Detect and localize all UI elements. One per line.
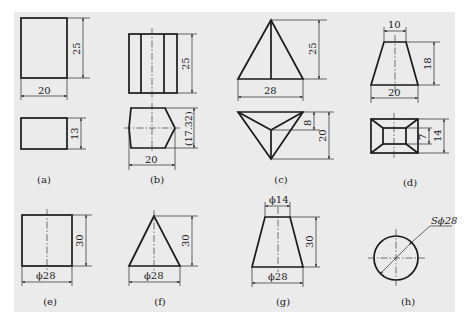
label-e: (e) (43, 296, 57, 307)
view-g: ϕ14 30 ϕ28 (g) (252, 194, 320, 307)
dim-e-diameter: ϕ28 (36, 270, 56, 281)
view-h: Sϕ28 (h) (368, 215, 457, 307)
dim-h-diameter: Sϕ28 (431, 215, 457, 226)
view-b: 25 (17.32) 20 (b) (124, 28, 198, 185)
label-c: (c) (274, 174, 288, 185)
dim-a-width: 20 (38, 85, 51, 96)
label-f: (f) (154, 296, 166, 307)
dim-a-depth: 13 (69, 127, 80, 140)
dim-b-corners: 20 (145, 154, 158, 165)
view-d: 10 18 20 7 14 (d) (371, 19, 449, 188)
dim-b-flats: (17.32) (183, 111, 194, 146)
dim-g-bottom: ϕ28 (268, 271, 288, 282)
dim-b-height: 25 (180, 57, 191, 70)
dim-d-top: 10 (388, 19, 401, 30)
dim-g-top: ϕ14 (269, 194, 289, 205)
dim-d-bottom: 20 (388, 87, 401, 98)
engineering-drawing: 25 20 13 (a) 25 (17.32) 20 (b) (0, 0, 468, 324)
dim-a-height: 25 (71, 42, 82, 55)
label-a: (a) (37, 174, 51, 185)
label-d: (d) (403, 177, 417, 188)
view-c: 25 28 8 20 (c) (238, 20, 334, 185)
dim-c-offset: 8 (302, 120, 313, 126)
dim-d-inner: 7 (417, 134, 428, 140)
dim-c-depth: 20 (317, 129, 328, 142)
dim-f-height: 30 (180, 234, 191, 247)
view-e: 30 ϕ28 (e) (22, 209, 92, 307)
dim-f-diameter: ϕ28 (144, 270, 164, 281)
label-g: (g) (276, 296, 290, 307)
view-f: 30 ϕ28 (f) (129, 210, 198, 307)
label-h: (h) (401, 296, 415, 307)
dim-g-height: 30 (304, 235, 315, 248)
view-a: 25 20 13 (a) (21, 18, 90, 185)
dim-c-height: 25 (307, 42, 318, 55)
dim-c-base: 28 (264, 85, 277, 96)
dim-e-height: 30 (74, 234, 85, 247)
dim-d-height: 18 (422, 57, 433, 70)
dim-d-outer: 14 (432, 129, 443, 142)
label-b: (b) (150, 174, 164, 185)
